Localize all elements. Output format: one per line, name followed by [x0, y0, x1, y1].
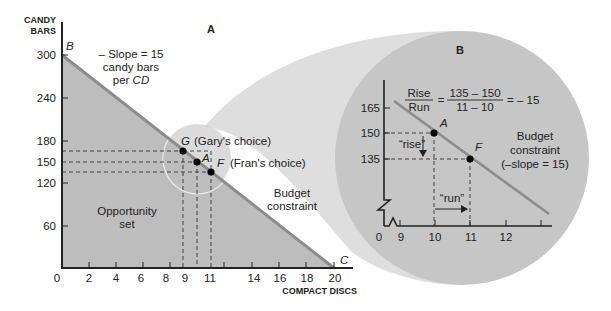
budget-constraint-figure: 300 240 180 150 120 60 0 2 4 6 8 9 11 14…	[0, 0, 611, 311]
point-f-label: F	[217, 157, 225, 169]
y-tick-180: 180	[37, 135, 56, 147]
x-tick-11: 11	[204, 272, 216, 284]
budget-constraint-label-line2: constraint	[267, 200, 318, 212]
x-tick-2: 2	[86, 272, 92, 284]
point-b-label: B	[66, 40, 74, 52]
formula-run: Run	[408, 101, 429, 113]
point-f-marker	[207, 168, 214, 175]
x-tick-6: 6	[138, 272, 144, 284]
inset-point-f-label: F	[475, 141, 483, 153]
inset-x-tick-10: 10	[429, 231, 442, 243]
y-tick-150: 150	[37, 156, 56, 168]
inset-y-tick-135: 135	[361, 153, 380, 165]
panel-b-inset: B Rise Run = 135 – 150 11 – 10 = – 15	[335, 31, 589, 285]
inset-x-tick-12: 12	[500, 231, 513, 243]
x-tick-20: 20	[329, 272, 342, 284]
inset-point-a-marker	[430, 129, 437, 136]
panel-b-label: B	[456, 44, 464, 56]
inset-point-f-marker	[466, 155, 473, 162]
inset-budget-label-line2: constraint	[510, 144, 561, 156]
budget-constraint-label-line1: Budget	[274, 187, 311, 199]
y-tick-120: 120	[37, 177, 56, 189]
y-tick-240: 240	[37, 92, 56, 104]
opportunity-set-label-line1: Opportunity	[97, 205, 157, 217]
formula-denominator: 11 – 10	[456, 101, 494, 113]
slope-annotation-line3: per CD	[113, 74, 149, 86]
formula-rise: Rise	[407, 87, 430, 99]
inset-x-tick-9: 9	[398, 231, 404, 243]
point-g-label: G	[181, 135, 190, 147]
fran-choice-label: (Fran's choice)	[230, 157, 306, 169]
point-a-marker	[193, 158, 200, 165]
opportunity-set-label-line2: set	[119, 218, 135, 230]
formula-equals: =	[438, 94, 445, 106]
inset-y-tick-165: 165	[361, 102, 380, 114]
y-tick-60: 60	[43, 220, 56, 232]
slope-annotation-line2: candy bars	[103, 61, 160, 73]
y-tick-300: 300	[37, 49, 56, 61]
rise-label: “rise”	[399, 138, 425, 150]
x-tick-4: 4	[113, 272, 120, 284]
inset-x-tick-11: 11	[465, 231, 477, 243]
inset-budget-label-line3: (–slope = 15)	[501, 158, 569, 170]
panel-a-label: A	[207, 23, 215, 35]
inset-point-a-label: A	[439, 117, 448, 129]
x-tick-18: 18	[301, 272, 314, 284]
point-c-label: C	[340, 254, 349, 266]
formula-result: = – 15	[507, 94, 539, 106]
x-tick-9: 9	[182, 272, 188, 284]
point-g-marker	[179, 147, 186, 154]
origin-label: 0	[54, 272, 60, 284]
inset-origin-label: 0	[376, 231, 382, 243]
y-axis-title-line1: CANDY	[24, 15, 56, 25]
inset-y-tick-150: 150	[361, 127, 380, 139]
point-a-label: A	[201, 152, 210, 164]
x-tick-14: 14	[248, 272, 261, 284]
gary-choice-label: (Gary's choice)	[194, 135, 271, 147]
x-axis-title: COMPACT DISCS	[282, 286, 357, 296]
y-axis-title-line2: BARS	[30, 26, 56, 36]
formula-numerator: 135 – 150	[449, 87, 500, 99]
inset-budget-label-line1: Budget	[517, 130, 554, 142]
slope-annotation-line1: – Slope = 15	[99, 48, 164, 60]
x-tick-16: 16	[274, 272, 287, 284]
x-tick-8: 8	[163, 272, 169, 284]
run-label: “run”	[440, 192, 464, 204]
